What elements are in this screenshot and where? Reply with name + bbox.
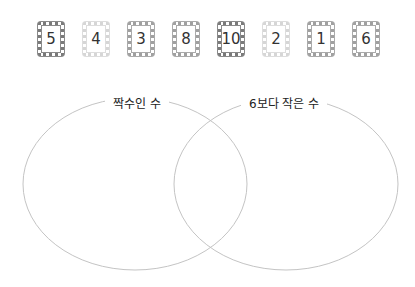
less-than-six-label: 6보다 작은 수 [241, 92, 327, 113]
venn-diagram [0, 0, 415, 287]
even-numbers-label: 짝수인 수 [105, 92, 169, 113]
less-than-six-set[interactable] [174, 98, 398, 270]
even-numbers-set[interactable] [23, 98, 247, 270]
